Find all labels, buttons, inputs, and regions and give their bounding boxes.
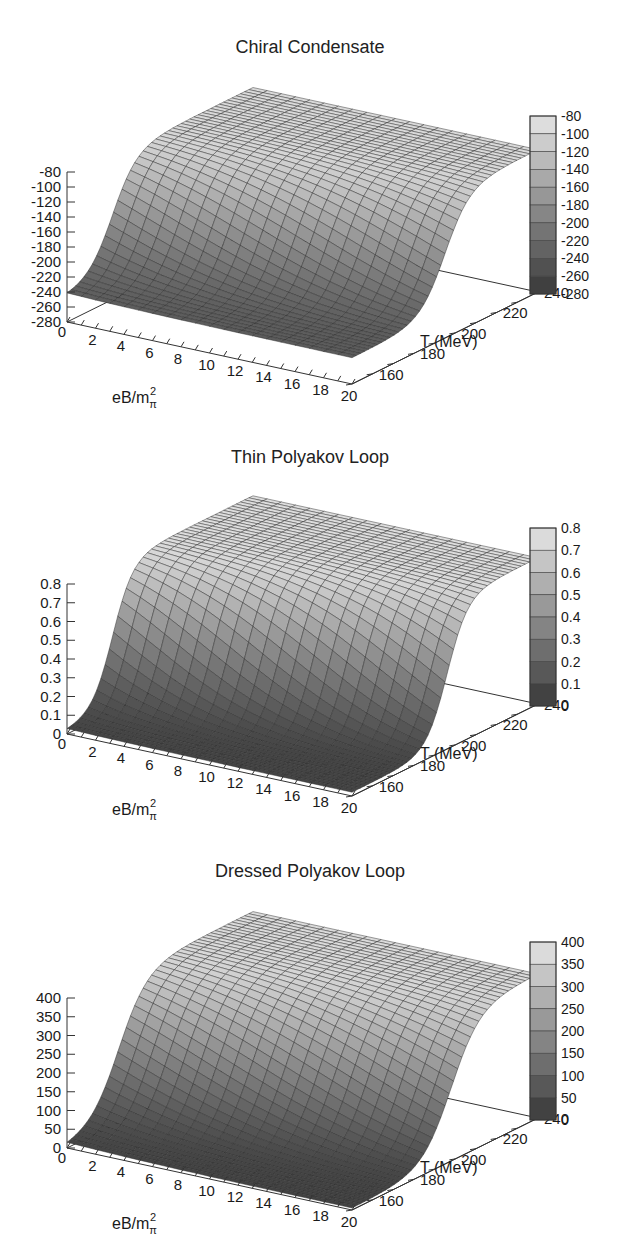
colorbar-tick-label: -80 [561,108,581,124]
z-tick-label: 400 [36,989,61,1006]
colorbar-tick-label: 0.8 [561,520,581,536]
colorbar: -80-100-120-140-160-180-200-220-240-260-… [530,108,589,302]
z-tick-label: 200 [36,1064,61,1081]
z-tick-label: 0.1 [40,706,61,723]
eB-tick-label: 6 [145,344,153,361]
colorbar-tick-label: -140 [561,161,589,177]
z-tick-label: -280 [31,313,61,330]
eB-tick-label: 6 [145,756,153,773]
colorbar: 0.80.70.60.50.40.30.20.10 [530,520,581,714]
chiral-condensate-surface-plot: 02468101214161820eB/mπ2160180200220240T … [0,0,620,410]
z-tick-label: 0.4 [40,650,61,667]
eB-tick-label: 10 [198,356,215,373]
colorbar-tick-label: 0.7 [561,542,581,558]
eB-tick-label: 8 [174,350,182,367]
colorbar-tick-label: 100 [561,1068,585,1084]
z-tick-label: 0 [53,725,61,742]
eB-tick-label: 14 [255,368,272,385]
colorbar-tick-label: 200 [561,1023,585,1039]
eB-tick-label: 18 [312,793,329,810]
eB-tick-label: 4 [117,749,125,766]
colorbar-tick-label: 300 [561,979,585,995]
colorbar-tick-label: 0.6 [561,565,581,581]
dressed-polyakov-loop-panel: Dressed Polyakov Loop 02468101214161820e… [0,826,620,1236]
eB-tick-label: 4 [117,1163,125,1180]
eB-tick-label: 16 [284,1201,301,1218]
eB-tick-label: 10 [198,1182,215,1199]
eB-axis-label: eB/mπ2 [112,797,157,822]
colorbar-tick-label: -100 [561,126,589,142]
eB-tick-label: 2 [88,331,96,348]
surface-mesh [67,88,538,358]
eB-tick-label: 2 [88,743,96,760]
T-tick-label: 220 [503,716,528,733]
eB-tick-label: 4 [117,337,125,354]
T-tick-label: 160 [379,366,404,383]
z-tick-label: 0.2 [40,688,61,705]
colorbar-tick-label: 0.2 [561,654,581,670]
colorbar-tick-label: 0 [561,698,569,714]
z-tick-label: 50 [44,1120,61,1137]
eB-tick-label: 2 [88,1157,96,1174]
colorbar-tick-label: -260 [561,268,589,284]
T-tick-label: 220 [503,1130,528,1147]
z-tick-label: 0.5 [40,631,61,648]
colorbar-tick-label: 0.4 [561,609,581,625]
T-axis-label: T (MeV) [420,745,477,762]
T-axis-label: T (MeV) [420,1159,477,1176]
eB-tick-label: 10 [198,768,215,785]
colorbar-tick-label: 50 [561,1090,577,1106]
colorbar: 400350300250200150100500 [530,934,585,1128]
colorbar-tick-label: 0.5 [561,587,581,603]
colorbar-tick-label: 0.1 [561,676,581,692]
colorbar-tick-label: -280 [561,286,589,302]
dressed-polyakov-loop-surface-plot: 02468101214161820eB/mπ2160180200220240T … [0,826,620,1248]
z-tick-label: 0.3 [40,669,61,686]
eB-tick-label: 20 [341,387,358,404]
eB-tick-label: 12 [227,1188,244,1205]
eB-tick-label: 8 [174,1176,182,1193]
colorbar-tick-label: -180 [561,197,589,213]
z-tick-label: 250 [36,1045,61,1062]
T-tick-label: 160 [379,778,404,795]
colorbar-tick-label: -220 [561,233,589,249]
eB-tick-label: 20 [341,799,358,816]
colorbar-tick-label: 400 [561,934,585,950]
T-tick-label: 220 [503,304,528,321]
colorbar-tick-label: 250 [561,1001,585,1017]
z-tick-label: 0 [53,1139,61,1156]
colorbar-tick-label: 350 [561,956,585,972]
eB-tick-label: 18 [312,381,329,398]
plot-area: 02468101214161820eB/mπ2160180200220240T … [31,88,569,411]
eB-axis-label: eB/mπ2 [112,1211,157,1236]
colorbar-tick-label: 0 [561,1112,569,1128]
z-tick-label: 0.6 [40,613,61,630]
z-tick-label: 150 [36,1083,61,1100]
colorbar-tick-label: -120 [561,144,589,160]
z-tick-label: 0.8 [40,575,61,592]
eB-tick-label: 8 [174,762,182,779]
z-tick-label: 100 [36,1102,61,1119]
z-tick-label: 0.7 [40,594,61,611]
eB-axis-label: eB/mπ2 [112,385,157,410]
thin-polyakov-loop-panel: Thin Polyakov Loop 02468101214161820eB/m… [0,412,620,822]
eB-tick-label: 6 [145,1170,153,1187]
plot-area: 02468101214161820eB/mπ2160180200220240T … [36,912,569,1236]
colorbar-tick-label: -160 [561,179,589,195]
z-tick-label: 300 [36,1027,61,1044]
colorbar-tick-label: 0.3 [561,631,581,647]
eB-tick-label: 20 [341,1213,358,1230]
colorbar-tick-label: -200 [561,215,589,231]
T-tick-label: 160 [379,1192,404,1209]
colorbar-tick-label: 150 [561,1045,585,1061]
eB-tick-label: 12 [227,362,244,379]
eB-tick-label: 16 [284,787,301,804]
plot-area: 02468101214161820eB/mπ2160180200220240T … [40,496,569,822]
eB-tick-label: 18 [312,1207,329,1224]
eB-tick-label: 14 [255,780,272,797]
eB-tick-label: 12 [227,774,244,791]
thin-polyakov-loop-surface-plot: 02468101214161820eB/mπ2160180200220240T … [0,412,620,822]
chiral-condensate-panel: Chiral Condensate 02468101214161820eB/mπ… [0,0,620,410]
eB-tick-label: 16 [284,375,301,392]
colorbar-tick-label: -240 [561,250,589,266]
